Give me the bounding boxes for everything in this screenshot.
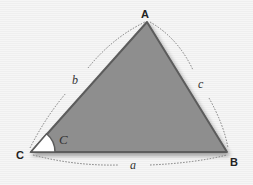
side-a-arc-left [33,155,118,165]
vertex-b-label: B [230,156,238,168]
triangle-svg: A B C a b c C [0,0,253,185]
side-c-label: c [198,77,204,91]
side-b-label: b [72,73,78,87]
side-a-arc-right [150,155,227,165]
side-a-label: a [130,158,136,172]
vertex-c-label: C [16,149,24,161]
angle-c-label: C [59,132,68,147]
triangle-diagram: A B C a b c C [0,0,253,185]
vertex-a-label: A [141,8,149,20]
